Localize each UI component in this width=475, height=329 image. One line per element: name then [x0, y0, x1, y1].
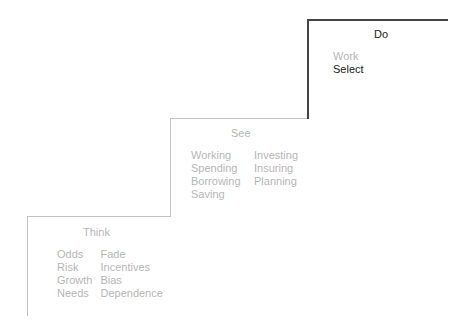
step-think-title: Think — [83, 226, 110, 238]
see-word: Spending — [191, 162, 246, 174]
see-word: Planning — [254, 175, 298, 187]
think-word: Risk — [57, 261, 92, 273]
step-do-word-list: Work Select — [333, 50, 364, 75]
think-word: Growth — [57, 274, 92, 286]
step-see-title: See — [231, 127, 251, 139]
step-see-word-grid: Working Spending Borrowing Saving Invest… — [191, 149, 298, 200]
see-word: Working — [191, 149, 246, 161]
do-word: Work — [333, 50, 364, 62]
step-do-title: Do — [374, 28, 388, 40]
step-think-word-grid: Odds Risk Growth Needs Fade Incentives B… — [57, 248, 163, 299]
step-think-top-edge — [27, 216, 171, 217]
think-word: Odds — [57, 248, 92, 260]
step-see-top-edge — [170, 118, 309, 119]
see-word: Investing — [254, 149, 298, 161]
think-word: Incentives — [100, 261, 162, 273]
think-word: Bias — [100, 274, 162, 286]
step-do-top-edge — [307, 19, 448, 21]
see-word: Insuring — [254, 162, 298, 174]
think-word: Dependence — [100, 287, 162, 299]
step-do-left-edge — [307, 19, 309, 119]
do-word-highlighted: Select — [333, 63, 364, 75]
think-word: Fade — [100, 248, 162, 260]
see-word: Saving — [191, 188, 246, 200]
step-see-left-edge — [170, 118, 171, 217]
step-think-left-edge — [27, 216, 28, 316]
see-word: Borrowing — [191, 175, 246, 187]
think-word: Needs — [57, 287, 92, 299]
